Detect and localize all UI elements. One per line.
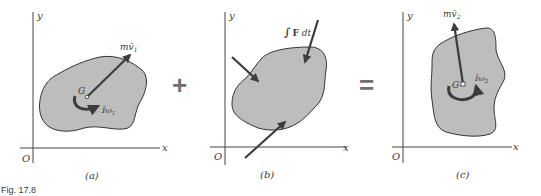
- equals-operator: =: [359, 70, 374, 100]
- panel-label-b: (b): [260, 169, 274, 180]
- rigid-body: [431, 28, 505, 136]
- center-of-mass-point: [85, 95, 89, 99]
- figure-caption: Fig. 17.8: [1, 185, 36, 195]
- x-axis-label: x: [343, 142, 349, 153]
- momentum-label: mv̄1: [120, 42, 137, 53]
- rigid-body: [40, 56, 147, 131]
- y-axis-label: y: [36, 10, 43, 21]
- rigid-body: [232, 47, 326, 130]
- center-of-mass-label: G: [78, 86, 85, 96]
- panel-label-a: (a): [85, 170, 99, 181]
- panel-label-c: (c): [456, 169, 470, 180]
- plus-operator: +: [172, 70, 187, 100]
- panel-b: y x O ∫Fdt (b): [210, 10, 349, 180]
- center-of-mass-label: G: [452, 80, 459, 90]
- x-axis-label: x: [162, 142, 168, 153]
- panel-c: y x O mv̄2 G Īω2 (c): [392, 9, 519, 180]
- momentum-label: mv̄2: [443, 9, 461, 20]
- origin-label: O: [22, 153, 30, 164]
- impulse-label: ∫Fdt: [284, 26, 312, 39]
- impulse-momentum-diagram: y x O mv̄1 G Īω1 (a) + y x O ∫Fdt: [0, 0, 541, 196]
- origin-label: O: [392, 151, 400, 162]
- y-axis-label: y: [228, 10, 235, 21]
- panel-a: y x O mv̄1 G Īω1 (a): [20, 10, 168, 181]
- origin-label: O: [214, 151, 222, 162]
- x-axis-label: x: [513, 141, 519, 152]
- y-axis-label: y: [406, 10, 413, 21]
- center-of-mass-point: [461, 82, 465, 86]
